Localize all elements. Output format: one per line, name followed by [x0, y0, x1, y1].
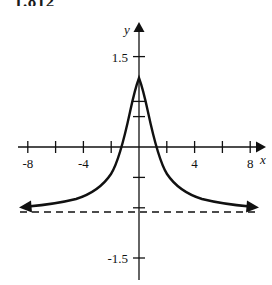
curve-left-arrow-icon	[19, 201, 32, 213]
x-tick-label-1: -4	[78, 156, 89, 171]
curve-right-arrow-icon	[246, 201, 259, 213]
x-axis-label: x	[259, 152, 266, 167]
y-axis-label: y	[122, 22, 130, 37]
x-tick-label-3: 8	[247, 156, 254, 171]
y-axis-arrow-icon	[134, 22, 145, 32]
y-tick-label-1: -1.5	[107, 251, 128, 266]
x-tick-label-2: 4	[191, 156, 198, 171]
y-tick-label-0: 1.5	[112, 50, 128, 65]
x-tick-label-0: -8	[22, 156, 33, 171]
graph-figure: y x -8 -4 4 8 1.5 -1.5	[0, 0, 272, 285]
x-axis-arrow-icon	[256, 142, 266, 153]
figure-container: 1.812 y x	[0, 0, 272, 285]
